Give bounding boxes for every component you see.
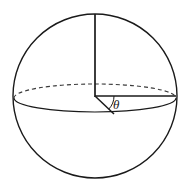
sphere-diagram: θ: [0, 0, 186, 191]
theta-label: θ: [113, 97, 120, 112]
figure-root: θ: [0, 0, 186, 191]
